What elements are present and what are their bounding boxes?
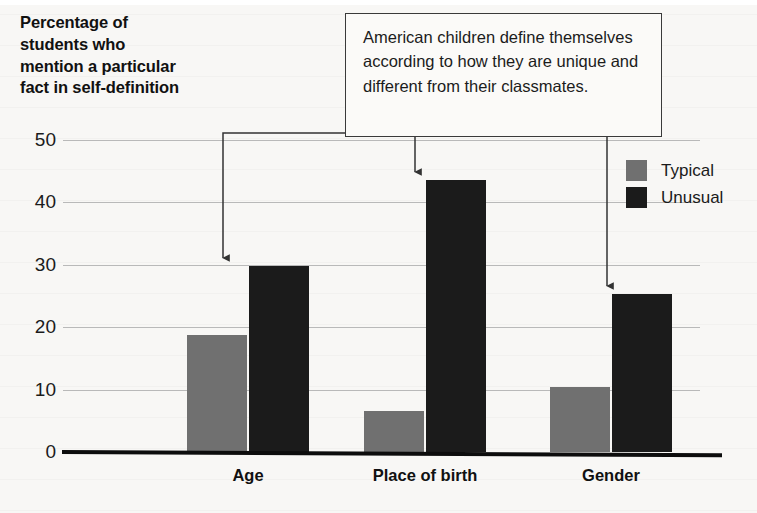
x-axis-label-gender: Gender (582, 466, 640, 485)
plot-area (63, 140, 703, 452)
y-axis: 01020304050 (6, 140, 56, 452)
chart-title-line-3: mention a particular (20, 56, 320, 78)
bar-gender-unusual (612, 294, 672, 452)
legend-swatch-unusual (626, 187, 647, 208)
chart-title-line-2: students who (20, 34, 320, 56)
y-tick-label-20: 20 (12, 316, 56, 338)
gridline-20 (63, 327, 700, 328)
annotation-callout-text: American children define themselves acco… (363, 25, 653, 98)
gridline-50 (63, 140, 700, 141)
chart-figure: Percentage of students who mention a par… (0, 0, 757, 513)
y-tick-label-30: 30 (12, 253, 56, 275)
chart-title-line-4: fact in self-definition (20, 77, 320, 99)
bar-gender-typical (550, 387, 610, 452)
chart-legend: TypicalUnusual (626, 157, 723, 211)
page-edge (0, 0, 757, 5)
y-tick-label-40: 40 (12, 191, 56, 213)
y-tick-label-10: 10 (12, 378, 56, 400)
y-tick-label-0: 0 (12, 441, 56, 463)
annotation-callout-box: American children define themselves acco… (345, 13, 662, 137)
gridline-30 (63, 265, 700, 266)
y-tick-label-50: 50 (12, 129, 56, 151)
x-axis-label-age: Age (232, 466, 263, 485)
legend-item-typical: Typical (626, 157, 723, 184)
bar-place-of-birth-typical (364, 411, 424, 452)
legend-label-unusual: Unusual (661, 188, 723, 208)
chart-title-line-1: Percentage of (20, 12, 320, 34)
legend-label-typical: Typical (661, 161, 714, 181)
legend-swatch-typical (626, 160, 647, 181)
bar-age-typical (187, 335, 247, 452)
x-axis-label-place-of-birth: Place of birth (373, 466, 478, 485)
bar-place-of-birth-unusual (426, 180, 486, 452)
bar-age-unusual (249, 266, 309, 452)
chart-title: Percentage of students who mention a par… (20, 12, 320, 99)
gridline-40 (63, 202, 700, 203)
legend-item-unusual: Unusual (626, 184, 723, 211)
